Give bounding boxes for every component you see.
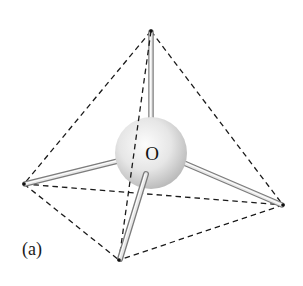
panel-label: (a) — [22, 239, 42, 260]
vertex-right — [281, 203, 285, 207]
bond-bottom — [119, 174, 146, 259]
tetrahedron-diagram: O (a) — [0, 0, 303, 286]
vertex-top — [149, 29, 153, 33]
vertex-bottom — [117, 258, 121, 262]
vertex-left — [22, 182, 26, 186]
edge-right-bottom — [119, 205, 283, 260]
oxygen-label: O — [145, 143, 159, 164]
bond-left — [25, 160, 118, 184]
bond-top — [150, 32, 151, 122]
